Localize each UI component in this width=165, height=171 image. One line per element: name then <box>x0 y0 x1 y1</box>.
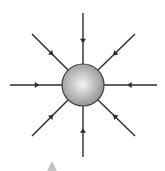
arrowhead-icon <box>80 39 86 44</box>
arrowhead-icon <box>80 128 86 133</box>
triangle-marker-icon <box>47 161 57 171</box>
arrowhead-icon <box>35 82 40 88</box>
field-line-upper-left <box>32 34 68 70</box>
electric-field-diagram <box>0 0 165 171</box>
field-line-upper-right <box>98 34 135 70</box>
arrowhead-icon <box>127 82 132 88</box>
field-line-lower-right <box>98 100 135 136</box>
field-line-lower-left <box>32 100 68 136</box>
charged-sphere <box>62 64 104 106</box>
